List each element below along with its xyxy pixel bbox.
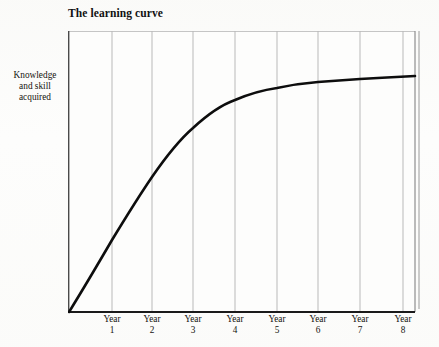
x-tick-year-6-number: 6	[295, 325, 341, 336]
x-tick-year-5-unit: Year	[254, 314, 300, 325]
x-tick-year-6: Year 6	[295, 314, 341, 335]
x-tick-year-2: Year 2	[129, 314, 175, 335]
x-tick-year-4-number: 4	[212, 325, 258, 336]
y-axis-label-line-1: Knowledge	[6, 70, 64, 81]
x-tick-year-7: Year 7	[337, 314, 383, 335]
y-axis-label-line-3: acquired	[6, 92, 64, 103]
x-tick-year-6-unit: Year	[295, 314, 341, 325]
page-title: The learning curve	[68, 6, 163, 20]
x-tick-year-8-unit: Year	[380, 314, 426, 325]
x-tick-year-4-unit: Year	[212, 314, 258, 325]
x-tick-year-5: Year 5	[254, 314, 300, 335]
x-tick-year-2-unit: Year	[129, 314, 175, 325]
plot-background	[68, 31, 415, 312]
x-tick-year-5-number: 5	[254, 325, 300, 336]
learning-curve-plot	[68, 31, 423, 321]
y-axis-label: Knowledge and skill acquired	[6, 70, 64, 103]
x-tick-year-8-number: 8	[380, 325, 426, 336]
x-tick-year-3-unit: Year	[170, 314, 216, 325]
x-tick-year-7-number: 7	[337, 325, 383, 336]
x-tick-year-3: Year 3	[170, 314, 216, 335]
x-axis-tick-labels: Year 1 Year 2 Year 3 Year 4 Year 5 Year …	[0, 314, 439, 346]
y-axis-label-line-2: and skill	[6, 81, 64, 92]
x-tick-year-2-number: 2	[129, 325, 175, 336]
x-tick-year-7-unit: Year	[337, 314, 383, 325]
x-tick-year-8: Year 8	[380, 314, 426, 335]
x-tick-year-4: Year 4	[212, 314, 258, 335]
plot-area	[68, 31, 415, 312]
chart-page: The learning curve Knowledge and skill a…	[0, 0, 439, 347]
x-tick-year-3-number: 3	[170, 325, 216, 336]
